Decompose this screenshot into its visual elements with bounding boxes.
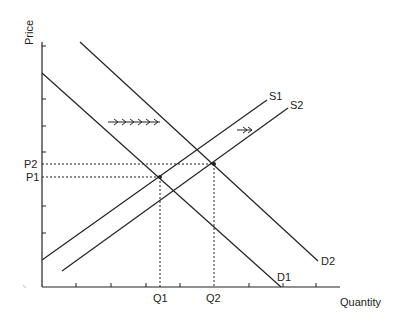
stray-mark	[23, 285, 26, 288]
p2-label: P2	[24, 158, 37, 170]
demand-curve-d2	[80, 42, 318, 261]
s2-label: S2	[290, 99, 303, 111]
q2-label: Q2	[206, 292, 221, 304]
d2-label: D2	[321, 255, 335, 267]
supply-shift-arrow-icon	[237, 127, 252, 133]
demand-curve-d1	[42, 73, 281, 287]
equilibrium-point-1	[158, 175, 162, 179]
equilibrium-point-2	[212, 162, 216, 166]
q1-label: Q1	[153, 292, 168, 304]
s1-label: S1	[269, 90, 282, 102]
d1-label: D1	[277, 271, 291, 283]
p1-label: P1	[26, 171, 39, 183]
supply-curve-s2	[62, 108, 288, 271]
y-axis-label: Price	[23, 20, 35, 45]
x-axis-label: Quantity	[340, 296, 381, 308]
supply-demand-diagram: Price Quantity S1 S2 D2 D1 P2 P1 Q1 Q2	[0, 0, 402, 330]
demand-shift-arrow-icon	[108, 119, 160, 125]
